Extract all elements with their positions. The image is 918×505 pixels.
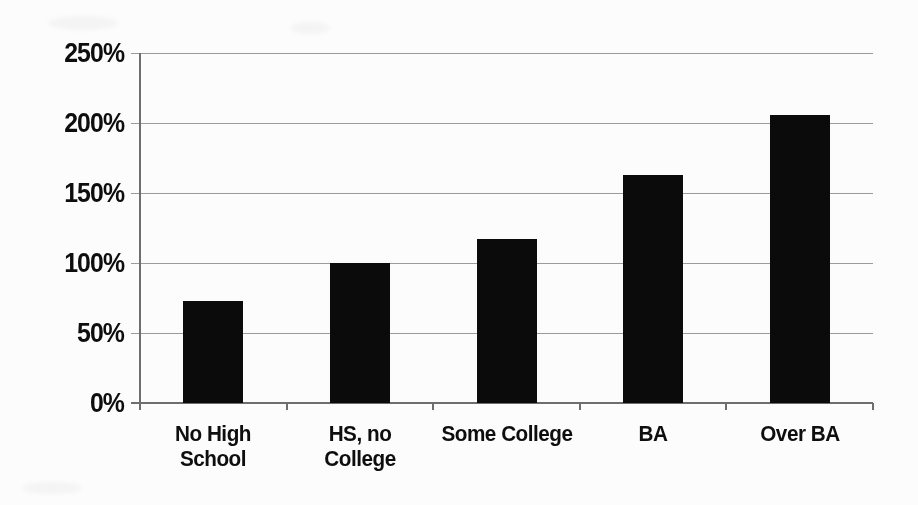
bar-some-college — [477, 239, 537, 403]
gridline-200 — [131, 123, 873, 124]
x-axis-tick — [139, 403, 141, 410]
y-axis-label-150: 150% — [64, 178, 124, 208]
x-axis-label-hs-no-college: HS, no College — [280, 421, 440, 471]
y-axis-label-100: 100% — [64, 248, 124, 278]
bar-hs-no-college — [330, 263, 390, 403]
bar-over-ba — [770, 115, 830, 403]
x-axis-label-no-high-school: No High School — [133, 421, 293, 471]
y-axis-label-50: 50% — [77, 318, 124, 348]
x-axis-tick — [725, 403, 727, 410]
x-axis-label-some-college: Some College — [427, 421, 587, 446]
bar-chart-screenshot: 0%50%100%150%200%250%No High SchoolHS, n… — [0, 0, 918, 505]
y-axis-label-250: 250% — [64, 38, 124, 68]
x-axis-label-ba: BA — [573, 421, 733, 446]
scan-noise-smudge — [22, 482, 82, 494]
x-axis-tick — [286, 403, 288, 410]
gridline-250 — [131, 53, 873, 54]
scan-noise-smudge — [290, 22, 330, 34]
scan-noise-smudge — [48, 16, 118, 30]
gridline-150 — [131, 193, 873, 194]
y-axis-label-200: 200% — [64, 108, 124, 138]
x-axis-tick — [872, 403, 874, 410]
y-axis-label-0: 0% — [90, 388, 124, 418]
bar-no-high-school — [183, 301, 243, 403]
x-axis-tick — [579, 403, 581, 410]
x-axis-tick — [432, 403, 434, 410]
x-axis-label-over-ba: Over BA — [720, 421, 880, 446]
y-axis-line — [139, 53, 141, 403]
bar-ba — [623, 175, 683, 403]
